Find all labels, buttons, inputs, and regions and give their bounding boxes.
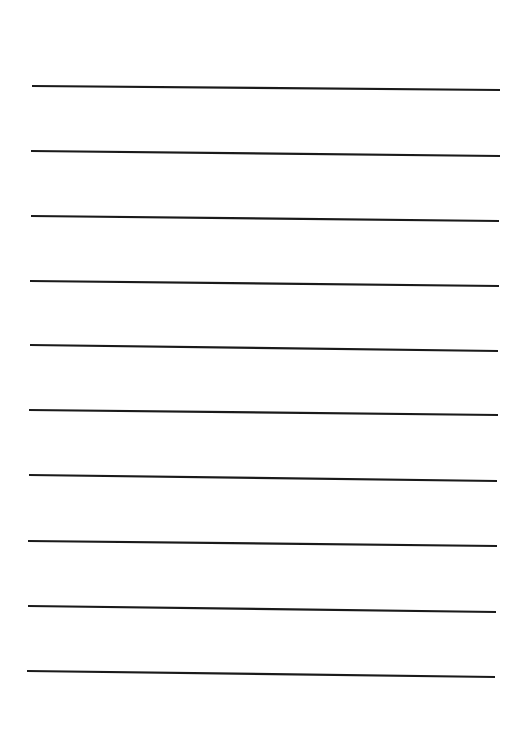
ruled-line-10 bbox=[27, 671, 495, 677]
ruled-line-1 bbox=[32, 86, 500, 90]
ruled-line-4 bbox=[30, 281, 499, 286]
rule-line-group bbox=[27, 86, 500, 677]
ruled-lines bbox=[0, 0, 527, 736]
ruled-line-3 bbox=[31, 216, 499, 221]
ruled-line-5 bbox=[30, 345, 498, 351]
ruled-line-9 bbox=[28, 606, 496, 612]
ruled-line-7 bbox=[29, 475, 497, 481]
lined-paper-page bbox=[0, 0, 527, 736]
ruled-line-6 bbox=[29, 410, 498, 415]
ruled-line-2 bbox=[31, 151, 500, 156]
ruled-line-8 bbox=[28, 541, 497, 546]
